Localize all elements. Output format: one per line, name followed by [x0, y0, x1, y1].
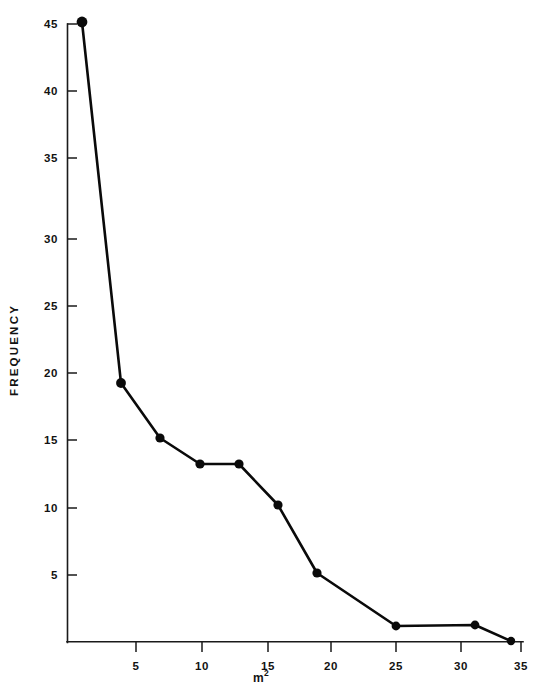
frequency-line-chart: 45 40 35 30 25 20 15 10 5 5 10 15 20 25: [0, 0, 534, 688]
y-tick-label-30: 30: [44, 233, 58, 245]
axes-group: [67, 24, 523, 643]
data-point: [507, 637, 515, 645]
y-tick-label-40: 40: [44, 85, 58, 97]
axis-titles: FREQUENCY m 2: [8, 304, 269, 685]
data-point: [273, 500, 282, 509]
x-tick-label-25: 25: [389, 660, 403, 672]
data-point: [312, 568, 321, 577]
x-tick-label-20: 20: [324, 660, 338, 672]
y-axis-tick-labels: 45 40 35 30 25 20 15 10 5: [44, 18, 58, 581]
x-axis-title-base: m: [253, 671, 264, 685]
y-tick-label-15: 15: [44, 434, 58, 446]
data-point: [471, 621, 480, 630]
data-point: [155, 433, 164, 442]
y-tick-label-10: 10: [44, 502, 58, 514]
y-tick-label-35: 35: [44, 152, 58, 164]
x-axis-ticks: [136, 642, 521, 652]
x-tick-label-5: 5: [133, 660, 140, 672]
data-point: [77, 17, 88, 28]
y-axis-ticks: [67, 24, 77, 575]
series-markers-frequency: [77, 17, 516, 646]
x-tick-label-10: 10: [195, 660, 209, 672]
x-axis-title-superscript: 2: [264, 668, 269, 678]
y-axis-title: FREQUENCY: [8, 304, 20, 396]
data-point: [392, 622, 401, 631]
y-tick-label-5: 5: [51, 569, 58, 581]
x-tick-label-35: 35: [514, 660, 528, 672]
series-frequency: [77, 17, 516, 646]
data-point: [195, 459, 204, 468]
data-point: [234, 459, 243, 468]
data-point: [116, 378, 126, 388]
chart-page: 45 40 35 30 25 20 15 10 5 5 10 15 20 25: [0, 0, 534, 688]
x-axis-tick-labels: 5 10 15 20 25 30 35: [133, 660, 529, 672]
x-tick-label-30: 30: [454, 660, 468, 672]
y-tick-label-25: 25: [44, 300, 58, 312]
y-tick-label-45: 45: [44, 18, 58, 30]
series-line-frequency: [82, 22, 511, 641]
y-tick-label-20: 20: [44, 367, 58, 379]
